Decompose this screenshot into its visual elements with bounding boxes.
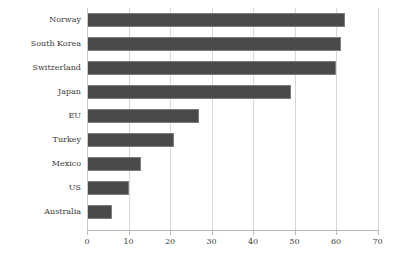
bar-mexico xyxy=(87,157,141,171)
y-tick-label-mexico: Mexico xyxy=(0,159,81,169)
x-tick-label-50: 50 xyxy=(283,237,307,247)
x-tick xyxy=(253,231,254,235)
bar-south-korea xyxy=(87,37,341,51)
bar-us xyxy=(87,181,129,195)
x-tick xyxy=(295,231,296,235)
x-tick-label-60: 60 xyxy=(324,237,348,247)
bar-australia xyxy=(87,205,112,219)
x-tick xyxy=(170,231,171,235)
y-tick-label-eu: EU xyxy=(0,111,81,121)
y-tick-label-norway: Norway xyxy=(0,15,81,25)
x-tick xyxy=(336,231,337,235)
x-tick-label-30: 30 xyxy=(200,237,224,247)
plot-area xyxy=(87,8,378,230)
bar-japan xyxy=(87,85,291,99)
y-tick-label-turkey: Turkey xyxy=(0,135,81,145)
y-tick-label-japan: Japan xyxy=(0,87,81,97)
y-tick-label-south-korea: South Korea xyxy=(0,39,81,49)
bar-chart: Norway South Korea Switzerland Japan EU … xyxy=(0,0,393,262)
x-tick xyxy=(87,231,88,235)
x-tick xyxy=(129,231,130,235)
bar-turkey xyxy=(87,133,174,147)
y-tick-label-australia: Australia xyxy=(0,207,81,217)
y-tick-label-switzerland: Switzerland xyxy=(0,63,81,73)
x-tick-label-0: 0 xyxy=(75,237,99,247)
gridline xyxy=(378,8,379,230)
x-tick-label-20: 20 xyxy=(158,237,182,247)
x-tick xyxy=(378,231,379,235)
bar-switzerland xyxy=(87,61,336,75)
bar-eu xyxy=(87,109,199,123)
y-axis-line xyxy=(87,8,88,230)
y-tick-label-us: US xyxy=(0,183,81,193)
bar-norway xyxy=(87,13,345,27)
x-tick-label-40: 40 xyxy=(241,237,265,247)
x-tick-label-70: 70 xyxy=(366,237,390,247)
x-tick xyxy=(212,231,213,235)
x-tick-label-10: 10 xyxy=(117,237,141,247)
